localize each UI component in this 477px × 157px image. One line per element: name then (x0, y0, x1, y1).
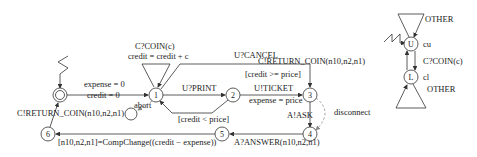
state-U: U (404, 37, 418, 51)
label-expense-init: expense = 0 (84, 79, 125, 89)
label-credit-add: credit = credit + c (128, 51, 189, 61)
label-credit-init: credit = 0 (87, 90, 120, 100)
label-return-coin-side: C!RETURN_COIN(n10,n2,n1) (258, 56, 365, 66)
svg-text:6: 6 (46, 130, 50, 139)
label-disconnect: disconnect (334, 107, 371, 117)
svg-text:1: 1 (154, 91, 158, 100)
label-ticket: U!TICKET (254, 83, 294, 93)
label-credit-lt-price: [credit < price] (178, 114, 229, 124)
state-initial (53, 88, 67, 102)
label-credit-ge-price: [credit >= price] (245, 69, 301, 79)
state-diagram: expense = 0 credit = 0 1 C?COIN(c) credi… (0, 0, 477, 157)
svg-text:3: 3 (308, 91, 312, 100)
label-print: U?PRINT (182, 83, 217, 93)
label-coin-side: C?COIN(c) (423, 56, 463, 66)
label-abort: abort (134, 100, 152, 110)
state-2: 2 (226, 88, 240, 102)
edge-2-to-1 (160, 100, 228, 113)
svg-text:U: U (408, 40, 414, 49)
edge-self-U (398, 14, 424, 37)
label-compchange: [n10,n2,n1]=CompChange((credit − expense… (58, 137, 216, 147)
annotation-cl: cl (423, 72, 430, 82)
label-expense-price: expense = price (249, 95, 303, 105)
label-other-U: OTHER (425, 14, 454, 24)
label-ask: A!ASK (287, 110, 314, 120)
svg-text:5: 5 (220, 130, 224, 139)
svg-text:L: L (409, 73, 414, 82)
state-3: 3 (303, 88, 317, 102)
state-5: 5 (215, 127, 229, 141)
label-answer: A?ANSWER(n10,n2,n1) (234, 137, 320, 147)
state-L: L (404, 70, 418, 84)
label-other-L: OTHER (427, 84, 456, 94)
start-marker-side-icon (384, 34, 405, 43)
start-marker-icon (58, 56, 68, 88)
svg-text:2: 2 (231, 91, 235, 100)
edge-self-1 (142, 64, 170, 87)
edge-self-L (396, 84, 426, 108)
annotation-cu: cu (423, 39, 432, 49)
state-6: 6 (41, 127, 55, 141)
label-coin: C?COIN(c) (135, 41, 175, 51)
label-return-coin-main: C!RETURN_COIN(n10,n2,n1) (17, 108, 124, 118)
edge-3-to-4-disconnect (316, 98, 325, 130)
